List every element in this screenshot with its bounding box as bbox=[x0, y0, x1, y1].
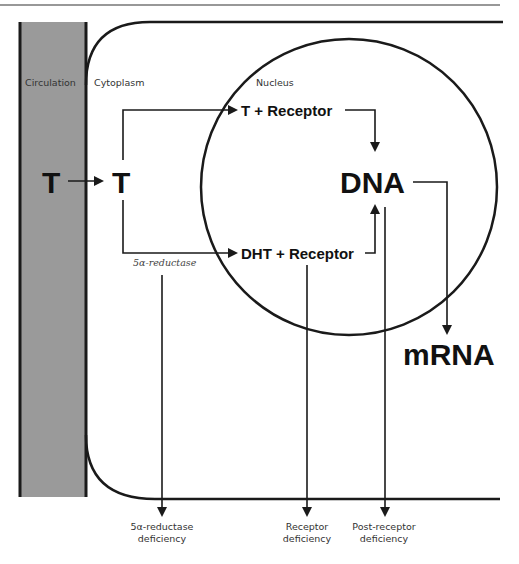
svg-text:Receptor: Receptor bbox=[286, 521, 329, 532]
testosterone-cytoplasm: T bbox=[112, 166, 130, 199]
svg-text:5α-reductase: 5α-reductase bbox=[131, 521, 194, 532]
five-alpha-reductase-label: 5α-reductase bbox=[133, 257, 197, 268]
dna-node: DNA bbox=[340, 166, 405, 199]
mrna-node: mRNA bbox=[403, 338, 495, 371]
arrow-dht-receptor-to-dna bbox=[365, 206, 375, 253]
svg-text:deficiency: deficiency bbox=[283, 533, 332, 544]
arrow-t-receptor-to-dna bbox=[345, 110, 375, 150]
circulation-region bbox=[20, 22, 86, 497]
arrow-t-to-dht bbox=[123, 200, 236, 253]
svg-text:Post-receptor: Post-receptor bbox=[352, 521, 415, 532]
svg-text:deficiency: deficiency bbox=[360, 533, 409, 544]
dht-receptor-complex: DHT + Receptor bbox=[241, 245, 354, 262]
circulation-label: Circulation bbox=[25, 77, 76, 88]
androgen-action-diagram: Circulation Cytoplasm Nucleus T T T + Re… bbox=[0, 0, 519, 564]
testosterone-circulation: T bbox=[42, 166, 60, 199]
deficiency-post-receptor: Post-receptor deficiency bbox=[352, 521, 415, 544]
t-receptor-complex: T + Receptor bbox=[241, 102, 332, 119]
deficiency-5ar: 5α-reductase deficiency bbox=[131, 521, 194, 544]
svg-text:deficiency: deficiency bbox=[138, 533, 187, 544]
deficiency-receptor: Receptor deficiency bbox=[283, 521, 332, 544]
cytoplasm-label: Cytoplasm bbox=[94, 77, 145, 88]
nucleus-label: Nucleus bbox=[256, 77, 294, 88]
